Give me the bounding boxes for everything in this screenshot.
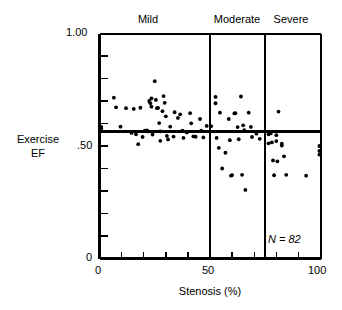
data-point <box>138 106 142 110</box>
data-point <box>124 106 128 110</box>
data-point <box>270 141 274 145</box>
data-point <box>176 116 180 120</box>
data-point <box>150 105 154 109</box>
data-point <box>243 188 247 192</box>
data-point <box>209 124 213 128</box>
data-point <box>132 107 136 111</box>
data-point <box>194 135 198 139</box>
data-point <box>269 132 273 136</box>
data-point <box>201 136 205 140</box>
data-point <box>271 159 275 163</box>
data-point <box>185 131 189 135</box>
data-point <box>205 124 209 128</box>
data-point <box>198 117 202 121</box>
scatter-plot-figure: Mild Moderate Severe 1.00 .50 0 Exercise… <box>0 0 342 310</box>
data-point <box>189 121 193 125</box>
data-point <box>284 173 288 177</box>
data-point <box>150 96 154 100</box>
data-point <box>172 135 176 139</box>
data-point <box>146 129 150 133</box>
data-point <box>156 106 160 110</box>
data-point <box>214 101 218 105</box>
data-point <box>173 110 177 114</box>
data-point <box>274 139 278 143</box>
data-point <box>277 110 281 114</box>
data-point <box>166 138 170 142</box>
data-point <box>234 111 238 115</box>
data-point <box>280 144 284 148</box>
data-point <box>250 135 254 139</box>
data-point <box>165 134 169 138</box>
data-point <box>180 129 184 133</box>
data-point <box>163 101 167 105</box>
data-point <box>119 125 123 129</box>
data-point <box>276 159 280 163</box>
data-point <box>141 135 145 139</box>
data-point <box>112 96 116 100</box>
data-point <box>161 109 165 113</box>
data-point <box>317 144 321 148</box>
data-point <box>317 149 321 153</box>
data-point <box>178 112 182 116</box>
data-point <box>182 136 186 140</box>
data-point <box>153 79 157 83</box>
data-point <box>134 132 138 136</box>
data-point <box>272 173 276 177</box>
data-point <box>230 173 234 177</box>
data-point <box>282 154 286 158</box>
data-point <box>241 123 245 127</box>
ticks-layer <box>100 56 299 259</box>
data-point <box>218 111 222 115</box>
data-point <box>304 174 308 178</box>
data-point <box>158 139 162 143</box>
data-point <box>154 98 158 102</box>
data-point <box>274 133 278 137</box>
data-point <box>114 105 118 109</box>
data-point <box>317 153 321 157</box>
data-point <box>267 141 271 145</box>
data-point <box>99 127 103 131</box>
reference-lines-layer <box>100 34 321 259</box>
data-point <box>158 129 162 133</box>
data-point <box>136 142 140 146</box>
data-point <box>239 95 243 99</box>
data-point <box>164 114 168 118</box>
data-point <box>168 125 172 129</box>
data-point <box>249 125 253 129</box>
data-point <box>220 167 224 171</box>
data-point <box>242 128 246 132</box>
data-point <box>217 146 221 150</box>
data-point <box>157 121 161 125</box>
data-point <box>240 173 244 177</box>
data-point <box>258 137 262 141</box>
data-point <box>199 129 203 133</box>
data-point <box>227 117 231 121</box>
data-point <box>130 131 134 135</box>
data-point <box>148 101 152 105</box>
data-point <box>237 137 241 141</box>
data-point <box>151 133 155 137</box>
plot-area <box>0 0 342 310</box>
data-point <box>247 111 251 115</box>
data-point <box>188 111 192 115</box>
data-point <box>255 132 259 136</box>
data-point <box>224 151 228 155</box>
data-point <box>236 125 240 129</box>
data-point <box>215 136 219 140</box>
data-point <box>162 94 166 98</box>
data-point <box>214 95 218 99</box>
data-point <box>228 138 232 142</box>
